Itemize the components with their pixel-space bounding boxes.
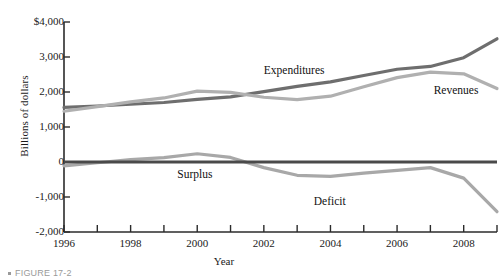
plot-area xyxy=(0,0,504,277)
y-axis-tick-label: 3,000 xyxy=(8,51,64,62)
figure-caption: FIGURE 17-2 xyxy=(8,268,72,277)
y-axis-tick-label: -2,000 xyxy=(8,226,64,237)
x-axis-tick-labels: 1996199820002002200420062008 xyxy=(0,238,504,254)
y-axis-tick-label: 0 xyxy=(8,156,64,167)
budget-line-chart: Billions of dollars $4,0003,0002,0001,00… xyxy=(0,0,504,277)
y-axis-tick-labels: $4,0003,0002,0001,0000-1,000-2,000 xyxy=(0,0,64,277)
annotation-deficit: Deficit xyxy=(314,195,346,207)
annotation-revenues: Revenues xyxy=(434,84,479,96)
y-axis-tick-label: -1,000 xyxy=(8,191,64,202)
caption-text: FIGURE 17-2 xyxy=(15,268,72,277)
x-axis-tick-label: 2000 xyxy=(167,238,227,249)
y-axis-tick-label: 1,000 xyxy=(8,121,64,132)
caption-bullet-icon xyxy=(8,272,11,275)
x-axis-tick-label: 2004 xyxy=(300,238,360,249)
y-axis-tick-label: 2,000 xyxy=(8,86,64,97)
x-axis-tick-label: 1996 xyxy=(34,238,94,249)
x-axis-tick-label: 2006 xyxy=(367,238,427,249)
x-axis-tick-label: 1998 xyxy=(101,238,161,249)
annotation-surplus: Surplus xyxy=(177,168,212,180)
x-axis-tick-label: 2008 xyxy=(434,238,494,249)
x-axis-title: Year xyxy=(0,255,504,267)
y-axis-tick-label: $4,000 xyxy=(8,16,64,27)
annotation-expenditures: Expenditures xyxy=(264,64,325,76)
x-axis-tick-label: 2002 xyxy=(234,238,294,249)
x-axis-title-text: Year xyxy=(214,255,234,267)
